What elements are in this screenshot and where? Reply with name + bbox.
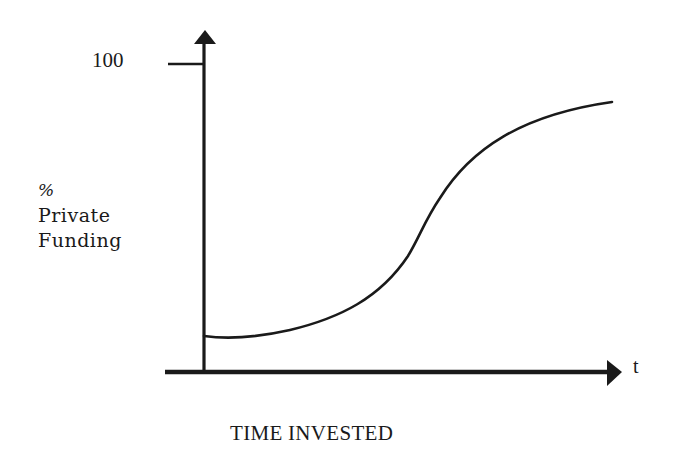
y-axis-arrow-icon (194, 30, 216, 44)
x-axis-variable-label: t (633, 355, 639, 378)
y-axis-title-percent: % (38, 178, 122, 203)
y-tick-label-100: 100 (92, 48, 124, 73)
x-axis-title: TIME INVESTED (230, 421, 393, 446)
y-axis-title: % Private Funding (38, 178, 122, 253)
x-axis-arrow-icon (607, 360, 622, 386)
y-axis-title-line1: Private (38, 203, 122, 228)
y-axis-title-line2: Funding (38, 228, 122, 253)
private-funding-curve (204, 102, 612, 338)
